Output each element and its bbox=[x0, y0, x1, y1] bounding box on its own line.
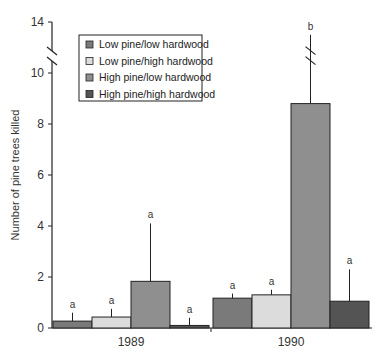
legend-swatch bbox=[86, 91, 93, 98]
y-tick-label: 0 bbox=[37, 321, 44, 335]
y-tick-label: 8 bbox=[37, 117, 44, 131]
significance-letter: a bbox=[230, 280, 236, 291]
legend-swatch bbox=[86, 58, 93, 65]
legend-label: Low pine/low hardwood bbox=[99, 38, 209, 50]
legend-label: Low pine/high hardwood bbox=[99, 55, 213, 67]
x-category-label: 1990 bbox=[278, 335, 305, 349]
bar bbox=[291, 104, 330, 328]
significance-letter: a bbox=[187, 304, 193, 315]
significance-letter: a bbox=[347, 255, 353, 266]
y-tick-label: 14 bbox=[31, 15, 45, 29]
significance-letter: a bbox=[148, 209, 154, 220]
y-tick-label: 4 bbox=[37, 219, 44, 233]
bar bbox=[92, 317, 131, 328]
legend-swatch bbox=[86, 41, 93, 48]
y-tick-label: 2 bbox=[37, 270, 44, 284]
legend-swatch bbox=[86, 74, 93, 81]
y-tick-label: 10 bbox=[31, 66, 45, 80]
bar bbox=[53, 321, 92, 328]
y-axis-title: Number of pine trees killed bbox=[9, 110, 21, 241]
significance-letter: b bbox=[308, 21, 314, 32]
y-tick-label: 6 bbox=[37, 168, 44, 182]
legend-label: High pine/low hardwood bbox=[99, 71, 211, 83]
bar-chart: 024681014Number of pine trees killed aaa… bbox=[0, 0, 388, 362]
bar bbox=[330, 301, 369, 328]
bar bbox=[131, 281, 170, 328]
significance-letter: a bbox=[70, 299, 76, 310]
bar bbox=[252, 295, 291, 328]
bar bbox=[213, 298, 252, 328]
legend: Low pine/low hardwoodLow pine/high hardw… bbox=[79, 35, 215, 101]
legend-label: High pine/high hardwood bbox=[99, 88, 215, 100]
significance-letter: a bbox=[109, 295, 115, 306]
x-category-label: 1989 bbox=[118, 335, 145, 349]
significance-letter: a bbox=[269, 276, 275, 287]
bar bbox=[170, 325, 209, 328]
